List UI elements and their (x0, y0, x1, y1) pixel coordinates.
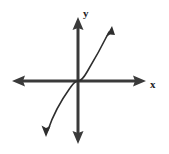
x-axis-label: x (150, 79, 156, 90)
coordinate-plane-svg (0, 0, 169, 154)
curve-down-arrow-icon (42, 126, 51, 138)
curve-up-arrow-icon (106, 26, 116, 38)
y-axis-label: y (83, 8, 89, 19)
graph-figure: y x (0, 0, 169, 154)
